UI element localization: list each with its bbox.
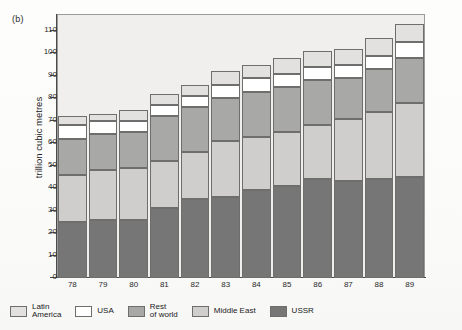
bar-segment[interactable] — [273, 74, 302, 87]
bar-segment[interactable] — [58, 222, 87, 278]
bar-segment[interactable] — [273, 186, 302, 278]
bar-segment[interactable] — [58, 175, 87, 222]
y-axis-tick-label: 0 — [11, 273, 57, 281]
bar-segment[interactable] — [334, 65, 363, 78]
bar-segment[interactable] — [273, 132, 302, 186]
bar-segment[interactable] — [395, 58, 424, 103]
bar-segment[interactable] — [395, 24, 424, 42]
bar-segment[interactable] — [181, 85, 210, 96]
bar-segment[interactable] — [395, 42, 424, 58]
bar-segment[interactable] — [119, 132, 148, 168]
bar-segment[interactable] — [395, 103, 424, 177]
bar-segment[interactable] — [365, 179, 394, 278]
bar-group — [57, 14, 425, 278]
bar-segment[interactable] — [150, 161, 179, 208]
bar-segment[interactable] — [365, 56, 394, 69]
bar-stack[interactable] — [242, 14, 271, 278]
bar-segment[interactable] — [58, 116, 87, 125]
bar-segment[interactable] — [242, 137, 271, 191]
x-axis-tick-label: 88 — [364, 280, 394, 289]
bar-segment[interactable] — [242, 92, 271, 137]
legend-swatch — [10, 306, 27, 317]
legend-item[interactable]: Rest of world — [128, 303, 178, 320]
bar-segment[interactable] — [150, 116, 179, 161]
bar-segment[interactable] — [334, 119, 363, 182]
legend-label: Rest of world — [150, 303, 178, 320]
bar-stack[interactable] — [181, 14, 210, 278]
x-axis-tick-label: 85 — [272, 280, 302, 289]
legend-item[interactable]: USSR — [270, 306, 314, 317]
bar-segment[interactable] — [365, 38, 394, 56]
bar-stack[interactable] — [150, 14, 179, 278]
bar-segment[interactable] — [181, 199, 210, 278]
legend-item[interactable]: USA — [75, 306, 113, 317]
bar-segment[interactable] — [211, 141, 240, 197]
bar-stack[interactable] — [58, 14, 87, 278]
bar-segment[interactable] — [211, 98, 240, 141]
bar-segment[interactable] — [395, 177, 424, 278]
bar-stack[interactable] — [365, 14, 394, 278]
bar-segment[interactable] — [181, 152, 210, 199]
bar-segment[interactable] — [58, 125, 87, 138]
bar-segment[interactable] — [273, 87, 302, 132]
y-axis-tick-label: 20 — [11, 228, 57, 236]
bar-segment[interactable] — [365, 69, 394, 112]
bar-stack[interactable] — [119, 14, 148, 278]
bar-segment[interactable] — [334, 49, 363, 65]
bar-segment[interactable] — [119, 168, 148, 220]
legend-label: USSR — [292, 307, 314, 315]
x-axis-tick-label: 81 — [149, 280, 179, 289]
bar-segment[interactable] — [89, 134, 118, 170]
legend-item[interactable]: Latin America — [10, 303, 61, 320]
legend-swatch — [270, 306, 287, 317]
bar-stack[interactable] — [334, 14, 363, 278]
bar-segment[interactable] — [150, 105, 179, 116]
bar-stack[interactable] — [273, 14, 302, 278]
bar-segment[interactable] — [181, 107, 210, 152]
x-axis-tick-label: 79 — [88, 280, 118, 289]
chart-legend: Latin AmericaUSARest of worldMiddle East… — [10, 297, 462, 325]
bar-segment[interactable] — [242, 190, 271, 278]
bar-stack[interactable] — [89, 14, 118, 278]
bar-segment[interactable] — [89, 220, 118, 278]
bar-segment[interactable] — [89, 114, 118, 121]
bar-segment[interactable] — [334, 78, 363, 118]
legend-swatch — [192, 306, 209, 317]
legend-label: Latin America — [32, 303, 61, 320]
bar-segment[interactable] — [181, 96, 210, 107]
y-axis-tick-label: 60 — [11, 138, 57, 146]
bar-segment[interactable] — [303, 80, 332, 125]
legend-item[interactable]: Middle East — [192, 306, 256, 317]
y-axis-tick-label: 100 — [11, 48, 57, 56]
x-axis-tick-label: 87 — [333, 280, 363, 289]
bar-segment[interactable] — [89, 170, 118, 219]
bar-segment[interactable] — [365, 112, 394, 179]
bar-segment[interactable] — [303, 67, 332, 80]
bar-stack[interactable] — [395, 14, 424, 278]
bar-segment[interactable] — [242, 65, 271, 78]
bar-segment[interactable] — [119, 110, 148, 121]
bar-segment[interactable] — [150, 208, 179, 278]
legend-swatch — [128, 306, 145, 317]
bar-segment[interactable] — [303, 179, 332, 278]
x-axis-tick-label: 78 — [57, 280, 87, 289]
bar-segment[interactable] — [211, 71, 240, 84]
bar-segment[interactable] — [242, 78, 271, 91]
bar-segment[interactable] — [273, 58, 302, 74]
figure-stacked-bar-chart: (b) trillion cubic metres 01020304050607… — [0, 0, 462, 330]
bar-segment[interactable] — [303, 125, 332, 179]
bar-segment[interactable] — [119, 220, 148, 278]
bar-segment[interactable] — [303, 51, 332, 67]
bar-segment[interactable] — [334, 181, 363, 278]
y-axis-tick-label: 30 — [11, 206, 57, 214]
bar-segment[interactable] — [211, 85, 240, 98]
bar-segment[interactable] — [58, 139, 87, 175]
x-axis-tick-label: 83 — [211, 280, 241, 289]
bar-segment[interactable] — [119, 121, 148, 132]
bar-stack[interactable] — [303, 14, 332, 278]
bar-segment[interactable] — [150, 94, 179, 105]
bar-segment[interactable] — [89, 121, 118, 134]
x-axis-tick-label: 82 — [180, 280, 210, 289]
bar-segment[interactable] — [211, 197, 240, 278]
bar-stack[interactable] — [211, 14, 240, 278]
